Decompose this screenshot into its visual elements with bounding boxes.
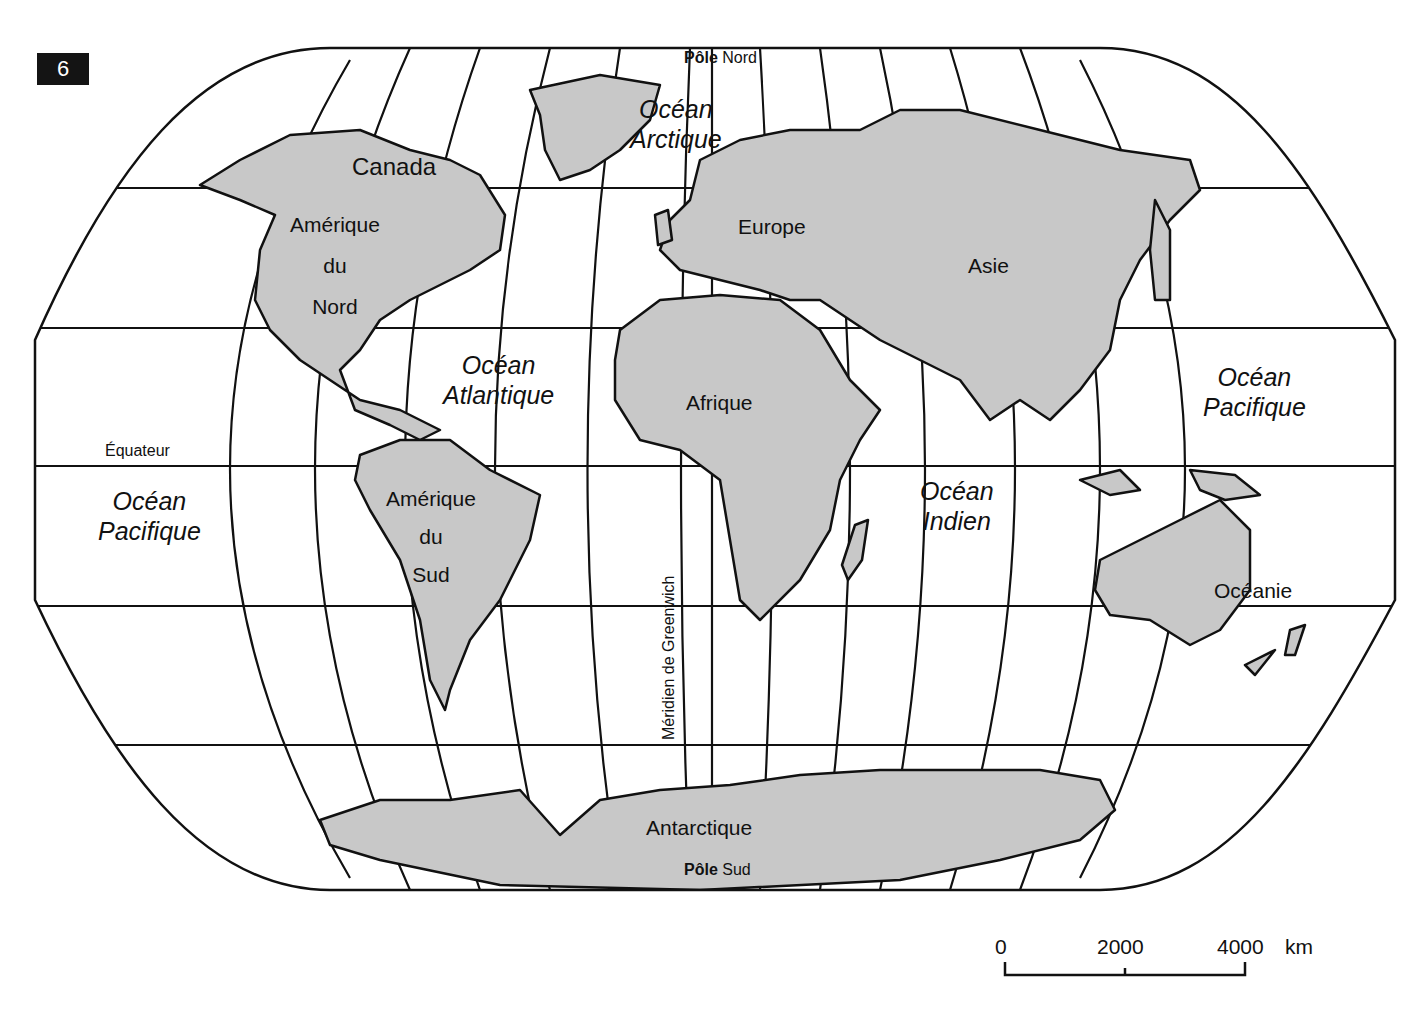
scale-ruler: [995, 960, 1255, 980]
scale-tick-0: 0: [995, 935, 1007, 959]
pacific-ocean-west-label: Océan Pacifique: [98, 486, 201, 546]
scale-tick-4000: 4000: [1217, 935, 1264, 959]
scale-bar: 0 2000 4000 km: [995, 935, 1325, 980]
north-america-label: Amérique du Nord: [290, 204, 380, 327]
greenwich-meridian-label: Méridien de Greenwich: [660, 575, 678, 740]
atlantic-ocean-label: Océan Atlantique: [443, 350, 554, 410]
australia-shape: [1095, 500, 1250, 645]
south-pole-label: Pôle Sud: [684, 862, 751, 878]
uk-shape: [655, 210, 672, 245]
equator-label: Équateur: [105, 443, 170, 459]
madagascar-shape: [842, 520, 868, 580]
indonesia-shape: [1080, 470, 1140, 495]
europe-label: Europe: [738, 216, 806, 237]
indian-ocean-label: Océan Indien: [920, 476, 994, 536]
pacific-ocean-east-label: Océan Pacifique: [1203, 362, 1306, 422]
south-america-label: Amérique du Sud: [386, 480, 476, 594]
new-guinea-shape: [1190, 470, 1260, 500]
arctic-ocean-label: Océan Arctique: [630, 94, 722, 154]
africa-shape: [615, 295, 880, 620]
scale-unit: km: [1285, 935, 1313, 959]
new-zealand-shape: [1245, 625, 1305, 675]
scale-tick-2000: 2000: [1097, 935, 1144, 959]
africa-label: Afrique: [686, 392, 753, 413]
oceania-label: Océanie: [1214, 580, 1292, 601]
canada-label: Canada: [352, 155, 436, 179]
asia-label: Asie: [968, 255, 1009, 276]
north-pole-label: Pôle Nord: [684, 50, 757, 66]
antarctica-label: Antarctique: [646, 817, 752, 838]
